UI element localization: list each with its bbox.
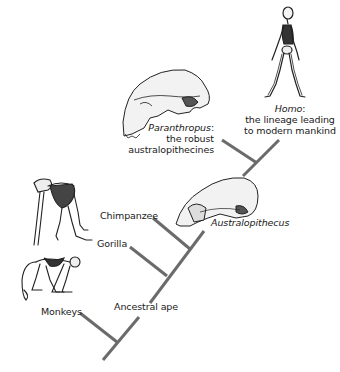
gorilla-label: Gorilla bbox=[97, 238, 127, 249]
chimpanzee-label: Chimpanzee bbox=[100, 210, 158, 221]
paranthropus-branch bbox=[222, 140, 257, 163]
monkey-skeleton-illustration bbox=[22, 257, 80, 300]
homo-label: Homo: the lineage leading to modern mank… bbox=[240, 103, 340, 136]
ape-skeleton-illustration bbox=[34, 179, 92, 245]
gorilla-branch bbox=[130, 247, 167, 276]
human-skeleton-illustration bbox=[265, 7, 305, 97]
homo-description-line-1: the lineage leading bbox=[245, 114, 335, 125]
ancestral-ape-label: Ancestral ape bbox=[114, 301, 178, 312]
paranthropus-genus: Paranthropus bbox=[148, 122, 211, 133]
trunk-line bbox=[103, 317, 139, 360]
monkeys-label: Monkeys bbox=[41, 306, 82, 317]
australopithecus-label: Australopithecus bbox=[211, 217, 289, 228]
homo-genus: Homo bbox=[275, 103, 303, 114]
paranthropus-colon: : bbox=[211, 122, 214, 133]
ape-trunk-line bbox=[150, 231, 204, 303]
homo-colon: : bbox=[302, 103, 305, 114]
paranthropus-description-line-2: australopithecines bbox=[128, 144, 214, 155]
paranthropus-label: Paranthropus: the robust australopitheci… bbox=[120, 122, 214, 155]
monkeys-branch bbox=[80, 313, 117, 342]
homo-description-line-2: to modern mankind bbox=[244, 125, 336, 136]
paranthropus-description-line-1: the robust bbox=[166, 133, 214, 144]
